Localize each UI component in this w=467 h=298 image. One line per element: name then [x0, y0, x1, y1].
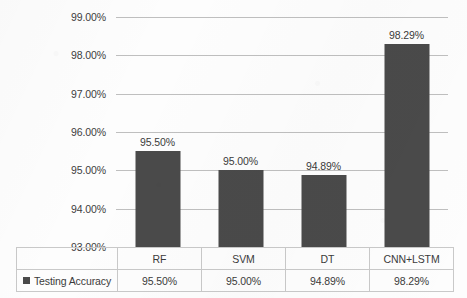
table-corner-cell	[17, 248, 118, 270]
data-table: RFSVMDTCNN+LSTM Testing Accuracy 95.50%9…	[16, 247, 454, 292]
y-axis-tick-label: 97.00%	[71, 88, 106, 100]
bar-value-label: 94.89%	[306, 160, 341, 172]
legend-swatch-icon	[23, 277, 30, 284]
bars-layer: 95.50%95.00%94.89%98.29%	[116, 17, 448, 247]
bar	[218, 170, 263, 247]
y-axis-tick-label: 96.00%	[71, 126, 106, 138]
y-axis-tick-label: 95.00%	[71, 164, 106, 176]
table-cell-value: 98.29%	[370, 270, 454, 292]
bar-slot: 98.29%	[365, 17, 448, 247]
legend-label: Testing Accuracy	[34, 275, 111, 287]
table-cell-category: CNN+LSTM	[370, 248, 454, 270]
plot-area: 95.50%95.00%94.89%98.29%	[116, 17, 448, 247]
table-cell-category: SVM	[202, 248, 286, 270]
bar	[135, 151, 180, 247]
y-axis-tick-label: 94.00%	[71, 203, 106, 215]
table-cell-value: 95.50%	[118, 270, 202, 292]
bar-slot: 94.89%	[282, 17, 365, 247]
legend-entry: Testing Accuracy	[17, 270, 118, 292]
y-axis-tick-label: 99.00%	[71, 11, 106, 23]
y-axis-tick-label: 98.00%	[71, 49, 106, 61]
bar	[384, 44, 429, 247]
table-row-values: Testing Accuracy 95.50%95.00%94.89%98.29…	[17, 270, 454, 292]
table-cell-category: DT	[286, 248, 370, 270]
bar-slot: 95.00%	[199, 17, 282, 247]
bar	[301, 175, 346, 247]
bar-slot: 95.50%	[116, 17, 199, 247]
bar-value-label: 95.50%	[140, 136, 175, 148]
table-row-categories: RFSVMDTCNN+LSTM	[17, 248, 454, 270]
bar-value-label: 95.00%	[223, 155, 258, 167]
bar-value-label: 98.29%	[389, 29, 424, 41]
table-cell-value: 95.00%	[202, 270, 286, 292]
table-cell-value: 94.89%	[286, 270, 370, 292]
bar-chart-figure: 93.00%94.00%95.00%96.00%97.00%98.00%99.0…	[0, 0, 467, 298]
table-cell-category: RF	[118, 248, 202, 270]
